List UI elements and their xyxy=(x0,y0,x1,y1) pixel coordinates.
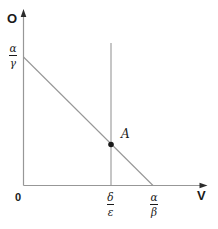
y-intercept-fraction: α γ xyxy=(5,43,21,68)
x-axis-label: V xyxy=(197,189,206,202)
point-a-dot xyxy=(108,142,114,148)
y-axis-label: O xyxy=(7,12,17,25)
y-axis-arrowhead-icon xyxy=(21,9,27,17)
vertical-line-x-numerator: δ xyxy=(106,192,114,204)
y-intercept-denominator: γ xyxy=(9,55,17,68)
x-intercept-denominator: β xyxy=(150,204,158,217)
vertical-line-x-denominator: ε xyxy=(107,204,115,217)
point-a-label: A xyxy=(121,128,130,140)
origin-label: 0 xyxy=(15,192,21,203)
diagram-canvas: O V 0 α γ δ ε α β A xyxy=(0,0,218,229)
x-intercept-fraction: α β xyxy=(146,192,162,217)
vertical-line-x-fraction: δ ε xyxy=(102,192,119,217)
y-intercept-numerator: α xyxy=(8,43,17,55)
sloping-line xyxy=(24,57,154,186)
x-intercept-numerator: α xyxy=(149,192,158,204)
